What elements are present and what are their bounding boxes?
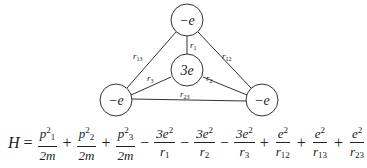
charge-label-center: 3e (179, 63, 193, 78)
operator: − (180, 134, 189, 152)
charge-label-bottom-right: −e (254, 93, 270, 108)
distance-label-r3: r3 (147, 73, 154, 84)
term-repulsion-r23: e2 r23 (348, 123, 366, 163)
operator: + (334, 134, 343, 152)
distance-label-r12: r12 (222, 51, 232, 62)
term-potential-r2: 3e2 r2 (194, 123, 215, 163)
hamiltonian-equation: H = p21 2m + p22 2m + p23 2m − 3e2 r1 − … (8, 120, 367, 166)
term-kinetic-2: p22 2m (77, 123, 97, 163)
operator: − (140, 134, 149, 152)
distance-label-r23: r23 (180, 89, 190, 100)
term-repulsion-r13: e2 r13 (311, 123, 329, 163)
charge-label-bottom-left: −e (108, 93, 124, 108)
operator: − (220, 134, 229, 152)
term-kinetic-3: p23 2m (115, 123, 135, 163)
distance-label-r13: r13 (133, 51, 143, 62)
operator: + (101, 134, 110, 152)
term-potential-r3: 3e2 r3 (234, 123, 255, 163)
operator: + (62, 134, 71, 152)
term-potential-r1: 3e2 r1 (154, 123, 175, 163)
distance-label-r1: r1 (190, 40, 197, 51)
equation-lhs: H (8, 134, 20, 152)
charge-diagram: −e 3e −e −e r1 r13 r12 r3 r2 r23 (0, 0, 364, 120)
equals-sign: = (24, 134, 33, 152)
charge-label-top: −e (179, 13, 195, 28)
distance-label-r2: r2 (206, 73, 213, 84)
term-kinetic-1: p21 2m (38, 123, 58, 163)
term-repulsion-r12: e2 r12 (274, 123, 292, 163)
operator: + (260, 134, 269, 152)
operator: + (297, 134, 306, 152)
